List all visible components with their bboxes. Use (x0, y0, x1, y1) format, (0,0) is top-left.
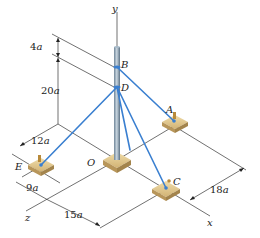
arrowhead (56, 58, 60, 62)
pole-top (114, 46, 120, 48)
collar-B (114, 65, 121, 68)
y-axis-label: y (111, 3, 118, 14)
ground-line-12a-ext (58, 124, 117, 160)
attach-E (39, 163, 43, 167)
dim-label-12a: 12a (31, 135, 50, 146)
arrowhead (95, 222, 100, 226)
anchor-block-A (162, 112, 188, 133)
point-label-D: D (120, 82, 129, 93)
ground-line-C-z (100, 190, 166, 228)
point-label-B: B (120, 59, 128, 70)
z-axis-label: z (24, 212, 31, 223)
cable-DC (117, 87, 166, 188)
dim-label-15a: 15a (64, 209, 83, 220)
collar-D (114, 85, 121, 88)
attach-C (164, 186, 168, 190)
point-label-C: C (173, 176, 181, 187)
x-axis-label: x (207, 217, 213, 228)
point-label-O: O (87, 157, 95, 168)
dim-label-9a: 9a (26, 182, 38, 193)
arrowhead (239, 168, 244, 172)
dim-label-20a: 20a (41, 85, 60, 96)
arrowhead (56, 38, 60, 42)
pole-cable-diagram: y B D A E O C z x 4a 20a 12a 9a 15a 18a (0, 0, 260, 238)
ground-line-A-x (174, 126, 246, 170)
attach-A (172, 119, 176, 123)
ext-line-D (52, 54, 114, 87)
arrowhead (190, 196, 195, 200)
dim-label-18a: 18a (210, 184, 229, 195)
arrowhead (20, 142, 25, 146)
dim-label-4a: 4a (30, 41, 42, 52)
cables (41, 67, 174, 188)
point-label-A: A (165, 104, 173, 115)
point-label-E: E (14, 161, 23, 172)
pole (114, 47, 120, 160)
ext-line-B (52, 34, 114, 67)
